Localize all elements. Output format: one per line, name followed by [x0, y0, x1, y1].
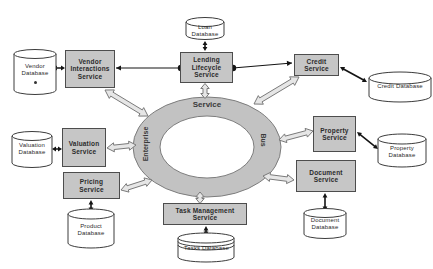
- ring-label-bus: Bus: [260, 133, 267, 146]
- db-label-product: Product Database: [69, 223, 113, 237]
- connector-ring-document-service: [263, 172, 294, 183]
- service-box-vendor-interactions: Vendor Interactions Service: [65, 50, 115, 88]
- db-label-vendor: Vendor Database: [16, 63, 54, 77]
- db-label-property: Property Database: [379, 145, 425, 159]
- service-box-task-management: Task Management Service: [163, 203, 247, 225]
- ring-label-enterprise: Enterprise: [142, 127, 150, 162]
- connector-ring-property-service: [279, 128, 313, 142]
- service-box-valuation: Valuation Service: [62, 128, 106, 167]
- connector-valuation-db: [52, 147, 62, 152]
- connector-lending-to-credit: [230, 61, 292, 71]
- connector-loan-db: [203, 41, 208, 51]
- connector-lending-to-credit-arrowhead: [287, 61, 292, 66]
- connector-lending-to-vendor: [116, 65, 184, 71]
- service-box-document: Document Service: [296, 160, 356, 192]
- db-label-tasks: Tasks Database: [184, 245, 229, 252]
- esb-ring: [133, 97, 281, 197]
- vendor-database-dot: [34, 81, 37, 84]
- connector-property-db: [357, 132, 378, 149]
- db-label-document: Document Database: [304, 217, 346, 231]
- connector-ring-vendor-service: [105, 90, 148, 116]
- ring-label-service: Service: [193, 100, 222, 109]
- connector-lending-to-credit-line: [233, 63, 292, 68]
- service-box-pricing: Pricing Service: [63, 172, 120, 199]
- db-label-loan: Loan Database: [187, 24, 223, 38]
- db-label-valuation: Valuation Database: [13, 142, 51, 156]
- service-box-property: Property Service: [313, 116, 356, 152]
- lending-esb-architecture-diagram: Service Enterprise Bus Vendor Interactio…: [0, 0, 433, 269]
- connector-lending-to-vendor-arrowhead: [116, 65, 121, 70]
- db-label-credit: Credit Database: [372, 83, 428, 90]
- connector-ring-credit-service: [254, 77, 299, 104]
- connector-credit-db: [340, 67, 367, 82]
- service-box-credit: Credit Service: [294, 54, 339, 76]
- connector-ring-lending-service: [201, 84, 209, 99]
- esb-ring-inner: [160, 116, 254, 178]
- connector-ring-valuation-service: [107, 141, 136, 152]
- service-box-lending-lifecycle: Lending Lifecycle Service: [180, 52, 233, 83]
- connector-ring-pricing-service: [121, 178, 152, 192]
